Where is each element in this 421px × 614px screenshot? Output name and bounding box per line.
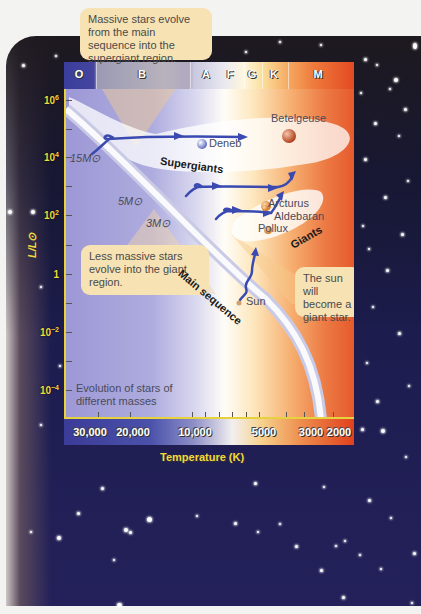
x-tick-20000: 20,000 — [116, 426, 150, 438]
y-tick-1e-2: 10−2 — [40, 326, 59, 338]
label-pollux: Pollux — [258, 222, 288, 234]
x-axis-title: Temperature (K) — [160, 451, 244, 463]
spectral-class-g: G — [248, 68, 257, 80]
spectral-class-o: O — [75, 68, 84, 80]
spectral-class-k: K — [270, 68, 278, 80]
label-aldebaran: Aldebaran — [274, 210, 324, 222]
spectral-class-b: B — [138, 68, 146, 80]
label-arcturus: Arcturus — [268, 197, 309, 209]
callout-sun-giant: The sun will become a giant star. — [295, 267, 354, 317]
temperature-band: 30,000 20,000 10,000 5000 3000 2000 — [64, 419, 354, 445]
spectral-class-band: O B A F G K M — [64, 62, 354, 90]
x-tick-10000: 10,000 — [178, 426, 212, 438]
y-tick-1e6: 106 — [44, 94, 59, 106]
legend-note: Evolution of stars of different masses — [76, 382, 186, 408]
spectral-class-f: F — [227, 68, 234, 80]
spectral-class-a: A — [202, 68, 210, 80]
y-tick-1: 1 — [53, 268, 59, 280]
plot-area: Less massive stars evolve into the giant… — [64, 89, 354, 419]
label-deneb: Deneb — [209, 137, 241, 149]
y-tick-1e2: 102 — [44, 209, 59, 221]
label-betelgeuse: Betelgeuse — [271, 112, 326, 124]
x-tick-2000: 2000 — [327, 426, 351, 438]
x-tick-30000: 30,000 — [73, 426, 107, 438]
y-tick-1e4: 104 — [44, 151, 59, 163]
y-axis-title: L/L⊙ — [26, 233, 39, 259]
hr-diagram: O B A F G K M — [64, 62, 354, 445]
y-tick-1e-4: 10−4 — [40, 384, 59, 396]
mass-label-15: 15M⊙ — [70, 152, 100, 165]
label-sun: Sun — [246, 295, 266, 307]
x-tick-3000: 3000 — [299, 426, 323, 438]
callout-massive-stars: Massive stars evolve from the main seque… — [80, 8, 212, 60]
mass-label-3: 3M⊙ — [146, 217, 170, 230]
mass-label-5: 5M⊙ — [118, 195, 142, 208]
x-tick-5000: 5000 — [252, 426, 276, 438]
spectral-class-m: M — [313, 68, 322, 80]
